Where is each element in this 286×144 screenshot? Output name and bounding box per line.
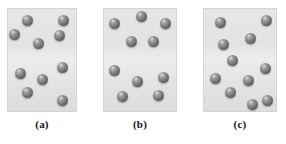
sphere-c-5	[227, 55, 238, 66]
sphere-highlight	[245, 76, 249, 79]
sphere-b-4	[126, 36, 137, 47]
sphere-b-10	[153, 90, 164, 101]
sphere-a-3	[9, 29, 20, 40]
sphere-highlight	[24, 16, 28, 19]
sphere-highlight	[59, 63, 63, 66]
sphere-b-6	[109, 65, 120, 76]
sphere-c-6	[260, 63, 271, 74]
sphere-a-8	[37, 74, 48, 85]
sphere-highlight	[217, 18, 221, 21]
sphere-highlight	[35, 39, 39, 42]
sphere-highlight	[155, 91, 159, 94]
sphere-highlight	[220, 40, 224, 43]
sphere-c-1	[215, 17, 226, 28]
sphere-a-9	[22, 87, 33, 98]
sphere-highlight	[111, 66, 115, 69]
sphere-highlight	[128, 37, 132, 40]
sphere-highlight	[212, 74, 216, 77]
sphere-highlight	[17, 69, 21, 72]
sphere-c-7	[210, 73, 221, 84]
sphere-b-1	[136, 11, 147, 22]
sphere-highlight	[264, 96, 268, 99]
sphere-b-8	[132, 76, 143, 87]
sphere-highlight	[229, 56, 233, 59]
sphere-highlight	[56, 31, 60, 34]
figure-canvas: (a) (b) (c)	[0, 0, 286, 144]
sphere-highlight	[263, 16, 267, 19]
sphere-b-2	[109, 18, 120, 29]
sphere-highlight	[111, 19, 115, 22]
sphere-c-11	[247, 99, 258, 110]
sphere-b-5	[148, 36, 159, 47]
sphere-highlight	[119, 92, 123, 95]
sphere-a-10	[57, 95, 68, 106]
sphere-highlight	[227, 88, 231, 91]
sphere-highlight	[262, 64, 266, 67]
sphere-highlight	[39, 75, 43, 78]
sphere-highlight	[247, 34, 251, 37]
sphere-c-4	[218, 39, 229, 50]
sphere-a-7	[15, 68, 26, 79]
sphere-highlight	[24, 88, 28, 91]
sphere-highlight	[59, 96, 63, 99]
panel-caption-c: (c)	[210, 118, 270, 131]
sphere-highlight	[162, 19, 166, 22]
panel-caption-a: (a)	[12, 118, 72, 131]
sphere-highlight	[134, 77, 138, 80]
sphere-c-10	[262, 95, 273, 106]
sphere-b-3	[160, 18, 171, 29]
sphere-highlight	[11, 30, 15, 33]
sphere-c-8	[243, 75, 254, 86]
sphere-highlight	[138, 12, 142, 15]
sphere-a-1	[22, 15, 33, 26]
sphere-c-9	[225, 87, 236, 98]
sphere-b-9	[117, 91, 128, 102]
sphere-highlight	[249, 100, 253, 103]
sphere-highlight	[160, 73, 164, 76]
sphere-c-2	[261, 15, 272, 26]
sphere-b-7	[158, 72, 169, 83]
panel-caption-b: (b)	[110, 118, 170, 131]
sphere-c-3	[245, 33, 256, 44]
sphere-a-6	[57, 62, 68, 73]
sphere-a-4	[54, 30, 65, 41]
sphere-a-2	[58, 15, 69, 26]
sphere-a-5	[33, 38, 44, 49]
sphere-highlight	[150, 37, 154, 40]
sphere-highlight	[60, 16, 64, 19]
